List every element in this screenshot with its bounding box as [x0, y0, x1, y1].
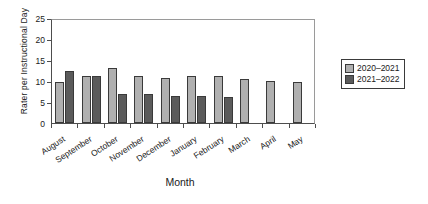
- bar[interactable]: [293, 82, 302, 123]
- legend-item[interactable]: 2021–2022: [345, 74, 400, 85]
- bar-group: [55, 20, 75, 123]
- bar[interactable]: [171, 96, 180, 123]
- bar-chart: Rater per Instructional Day 0510152025 A…: [0, 0, 428, 204]
- bar[interactable]: [118, 94, 127, 123]
- y-tick-label: 20: [27, 36, 45, 45]
- legend-label: 2020–2021: [357, 64, 400, 73]
- x-axis-title: Month: [0, 176, 360, 188]
- legend-item[interactable]: 2020–2021: [345, 63, 400, 74]
- x-tick-mark: [209, 124, 210, 128]
- x-tick-mark: [262, 124, 263, 128]
- bar[interactable]: [92, 76, 101, 123]
- bar-group: [161, 20, 181, 123]
- bar[interactable]: [266, 81, 275, 123]
- y-tick-label: 10: [27, 78, 45, 87]
- bar-group: [240, 20, 260, 123]
- bar[interactable]: [161, 78, 170, 123]
- bar[interactable]: [197, 96, 206, 123]
- bar[interactable]: [187, 76, 196, 123]
- bar[interactable]: [82, 76, 91, 123]
- x-tick-mark: [104, 124, 105, 128]
- bar-group: [293, 20, 313, 123]
- plot-inner: [52, 20, 314, 123]
- bar-group: [82, 20, 102, 123]
- y-tick-label: 5: [27, 99, 45, 108]
- bar[interactable]: [144, 94, 153, 123]
- x-tick-mark: [51, 124, 52, 128]
- x-tick-mark: [157, 124, 158, 128]
- y-tick-label: 0: [27, 120, 45, 129]
- x-tick-mark: [130, 124, 131, 128]
- bar[interactable]: [134, 76, 143, 123]
- bar[interactable]: [55, 82, 64, 123]
- bar[interactable]: [240, 79, 249, 123]
- x-tick-mark: [77, 124, 78, 128]
- legend-swatch-icon: [345, 64, 354, 73]
- plot-area: [51, 19, 315, 124]
- bar-group: [134, 20, 154, 123]
- y-tick-label: 25: [27, 15, 45, 24]
- bar[interactable]: [65, 71, 74, 123]
- bar[interactable]: [108, 68, 117, 123]
- bar-group: [214, 20, 234, 123]
- legend-label: 2021–2022: [357, 75, 400, 84]
- x-tick-mark: [236, 124, 237, 128]
- x-tick-mark: [289, 124, 290, 128]
- bar-group: [266, 20, 286, 123]
- legend-swatch-icon: [345, 75, 354, 84]
- bar-group: [108, 20, 128, 123]
- bar[interactable]: [214, 76, 223, 123]
- x-tick-mark: [315, 124, 316, 128]
- y-tick-label: 15: [27, 57, 45, 66]
- chart-legend: 2020–20212021–2022: [341, 59, 405, 89]
- bar-group: [187, 20, 207, 123]
- x-tick-mark: [183, 124, 184, 128]
- bar[interactable]: [224, 97, 233, 123]
